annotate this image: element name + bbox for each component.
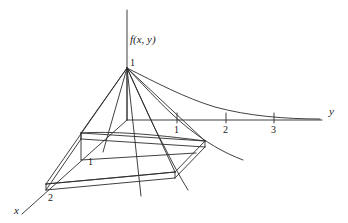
x-axis-label: x [14, 205, 19, 216]
y-axis-label: y [329, 106, 334, 117]
surface-plot-figure [0, 0, 348, 223]
f-axis-tick-label-1: 1 [130, 58, 135, 68]
x-axis-line [22, 120, 127, 214]
y-axis-tick-label-2: 2 [223, 125, 228, 135]
decay-curve-upper [127, 68, 320, 119]
x-axis-tick-label-2: 2 [48, 193, 53, 203]
x-axis-tick-label-1: 1 [88, 157, 93, 167]
domain-strip-region [46, 133, 205, 190]
function-label: f(x, y) [130, 34, 156, 45]
y-axis-tick-label-1: 1 [174, 125, 179, 135]
base-connector-x1 [81, 153, 196, 160]
y-axis-tick-label-3: 3 [271, 125, 276, 135]
